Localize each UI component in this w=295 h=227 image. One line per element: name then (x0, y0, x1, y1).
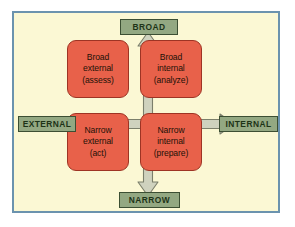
quadrant-line-3: (prepare) (154, 148, 188, 160)
quadrant-line-3: (assess) (82, 75, 114, 87)
quadrant-line-2: external (83, 136, 113, 148)
diagram-canvas: Broad external (assess) Broad internal (… (0, 0, 295, 227)
quadrant-line-3: (act) (90, 148, 107, 160)
quadrant-broad-external[interactable]: Broad external (assess) (67, 40, 129, 98)
quadrant-line-1: Broad (160, 52, 182, 64)
quadrant-line-2: external (83, 63, 113, 75)
axis-label-broad[interactable]: BROAD (120, 19, 178, 35)
quadrant-line-1: Narrow (84, 125, 111, 137)
axis-label-external[interactable]: EXTERNAL (18, 116, 76, 132)
axis-label-narrow[interactable]: NARROW (119, 192, 180, 208)
quadrant-line-1: Broad (87, 52, 109, 64)
quadrant-line-1: Narrow (157, 125, 184, 137)
quadrant-broad-internal[interactable]: Broad internal (analyze) (140, 40, 202, 98)
quadrant-narrow-internal[interactable]: Narrow internal (prepare) (140, 113, 202, 171)
quadrant-line-2: internal (157, 63, 184, 75)
quadrant-line-2: internal (157, 136, 184, 148)
diagram-panel: Broad external (assess) Broad internal (… (12, 11, 280, 213)
axis-label-internal[interactable]: INTERNAL (219, 116, 278, 132)
quadrant-narrow-external[interactable]: Narrow external (act) (67, 113, 129, 171)
quadrant-line-3: (analyze) (154, 75, 188, 87)
